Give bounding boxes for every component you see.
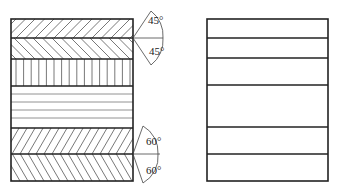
hatch-line bbox=[33, 38, 54, 59]
hatch-line bbox=[84, 154, 100, 181]
angle-label-45-lower: 45° bbox=[149, 45, 164, 57]
hatch-line bbox=[0, 38, 7, 59]
hatch-line bbox=[44, 128, 59, 154]
hatch-line bbox=[0, 19, 7, 38]
hatch-line bbox=[172, 128, 187, 154]
hatch-line bbox=[52, 38, 73, 59]
hatch-line bbox=[68, 154, 84, 181]
hatch-line bbox=[7, 19, 26, 38]
hatch-line bbox=[12, 154, 28, 181]
hatch-line bbox=[111, 19, 130, 38]
hatch-line bbox=[5, 38, 26, 59]
hatch-line bbox=[90, 38, 111, 59]
hatch-line bbox=[116, 128, 131, 154]
hatch-line bbox=[24, 38, 45, 59]
hatch-line bbox=[0, 128, 3, 154]
hatch-line bbox=[60, 128, 75, 154]
hatch-line bbox=[73, 19, 92, 38]
angle-label-45-upper: 45° bbox=[148, 14, 163, 26]
hatch-line bbox=[43, 38, 64, 59]
hatch-line bbox=[0, 128, 11, 154]
hatch-line bbox=[92, 19, 111, 38]
angle-label-60-upper: 60° bbox=[146, 135, 161, 147]
hatch-line bbox=[100, 154, 116, 181]
hatch-line bbox=[92, 154, 108, 181]
hatch-line bbox=[35, 19, 54, 38]
hatch-line bbox=[197, 19, 216, 38]
hatch-line bbox=[0, 38, 16, 59]
hatch-line bbox=[164, 128, 179, 154]
left-panel-hatched-layers bbox=[0, 19, 216, 181]
hatch-line bbox=[188, 128, 203, 154]
hatch-line bbox=[176, 38, 197, 59]
right-panel-layer-outline bbox=[207, 19, 328, 181]
hatch-line bbox=[128, 38, 149, 59]
hatch-line bbox=[109, 38, 130, 59]
hatch-line bbox=[100, 38, 121, 59]
hatch-line bbox=[121, 19, 140, 38]
hatch-line bbox=[196, 128, 211, 154]
layer-2-hatch bbox=[0, 38, 197, 59]
hatch-line bbox=[108, 154, 124, 181]
hatch-line bbox=[36, 154, 52, 181]
ply-layup-diagram: 45° 45° 60° 60° bbox=[0, 0, 338, 193]
hatch-line bbox=[164, 154, 180, 181]
hatch-line bbox=[100, 128, 115, 154]
hatch-line bbox=[60, 154, 76, 181]
hatch-line bbox=[28, 154, 44, 181]
hatch-line bbox=[52, 128, 67, 154]
hatch-line bbox=[45, 19, 64, 38]
hatch-line bbox=[180, 154, 196, 181]
hatch-line bbox=[0, 19, 16, 38]
hatch-line bbox=[14, 38, 35, 59]
hatch-line bbox=[83, 19, 102, 38]
hatch-line bbox=[76, 128, 91, 154]
hatch-line bbox=[84, 128, 99, 154]
hatch-line bbox=[81, 38, 102, 59]
hatch-line bbox=[44, 154, 60, 181]
hatch-line bbox=[12, 128, 27, 154]
layer-5-hatch bbox=[0, 128, 211, 154]
hatch-line bbox=[119, 38, 140, 59]
hatch-line bbox=[36, 128, 51, 154]
hatch-line bbox=[4, 154, 20, 181]
hatch-line bbox=[102, 19, 121, 38]
hatch-line bbox=[116, 154, 132, 181]
hatch-line bbox=[168, 19, 187, 38]
hatch-line bbox=[20, 128, 35, 154]
ray-lower bbox=[133, 154, 143, 183]
hatch-line bbox=[20, 154, 36, 181]
layer-4-hatch bbox=[11, 94, 133, 118]
hatch-line bbox=[76, 154, 92, 181]
hatch-line bbox=[187, 19, 206, 38]
hatch-line bbox=[180, 128, 195, 154]
hatch-line bbox=[64, 19, 83, 38]
hatch-line bbox=[0, 154, 4, 181]
hatch-line bbox=[16, 19, 35, 38]
hatch-line bbox=[52, 154, 68, 181]
hatch-line bbox=[166, 38, 187, 59]
angle-label-60-lower: 60° bbox=[146, 164, 161, 176]
hatch-line bbox=[92, 128, 107, 154]
hatch-line bbox=[62, 38, 83, 59]
hatch-line bbox=[172, 154, 188, 181]
layer-3-hatch bbox=[0, 59, 198, 86]
ray-upper bbox=[133, 126, 143, 154]
hatch-line bbox=[68, 128, 83, 154]
hatch-line bbox=[26, 19, 45, 38]
layer-1-hatch bbox=[0, 19, 216, 38]
hatch-line bbox=[108, 128, 123, 154]
hatch-line bbox=[28, 128, 43, 154]
hatch-line bbox=[54, 19, 73, 38]
hatch-line bbox=[178, 19, 197, 38]
hatch-line bbox=[124, 128, 139, 154]
hatch-line bbox=[71, 38, 92, 59]
layer-6-hatch bbox=[0, 154, 196, 181]
